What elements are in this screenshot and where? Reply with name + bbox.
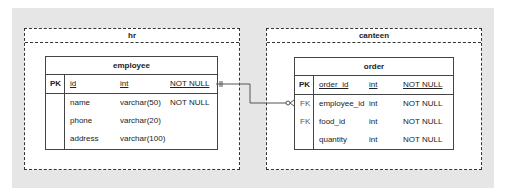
relationship-connector[interactable]	[0, 0, 506, 194]
crowfoot-icon	[290, 100, 294, 103]
zero-mark-icon	[286, 101, 290, 105]
